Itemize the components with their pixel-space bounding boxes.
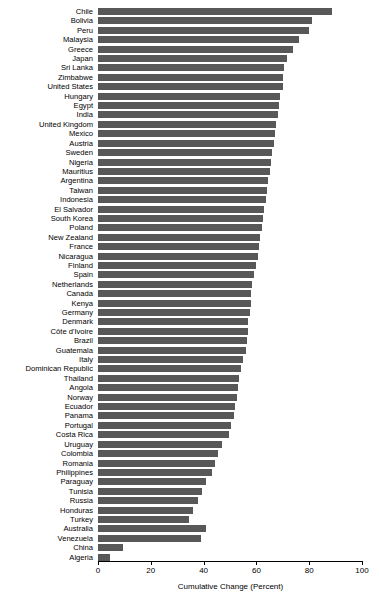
bar-row: [98, 469, 362, 476]
y-axis-label: Tunisia: [0, 488, 93, 495]
bar: [98, 356, 243, 363]
y-axis-label: Thailand: [0, 375, 93, 382]
bar-row: [98, 36, 362, 43]
y-axis-label: Romania: [0, 460, 93, 467]
y-axis-label: New Zealand: [0, 234, 93, 241]
bar: [98, 535, 201, 542]
y-axis-label: Finland: [0, 262, 93, 269]
x-axis-tick: [362, 561, 363, 565]
bar-chart: ChileBoliviaPeruMalaysiaGreeceJapanSri L…: [0, 0, 379, 603]
bar-row: [98, 55, 362, 62]
bar-row: [98, 309, 362, 316]
y-axis-label: Australia: [0, 525, 93, 532]
x-axis-tick: [204, 561, 205, 565]
bar-row: [98, 253, 362, 260]
x-axis-tick-label: 60: [252, 566, 261, 575]
bar-row: [98, 102, 362, 109]
bar: [98, 488, 202, 495]
bar-row: [98, 337, 362, 344]
bar-row: [98, 478, 362, 485]
y-axis-label: Netherlands: [0, 281, 93, 288]
bar: [98, 431, 229, 438]
bar: [98, 27, 309, 34]
bar: [98, 384, 238, 391]
y-axis-label: Denmark: [0, 318, 93, 325]
bar-row: [98, 516, 362, 523]
bar-row: [98, 394, 362, 401]
bar: [98, 262, 256, 269]
bar: [98, 8, 332, 15]
bar: [98, 243, 259, 250]
y-axis-label: Guatemala: [0, 347, 93, 354]
bar: [98, 478, 206, 485]
y-axis-label: Côte d'Ivoire: [0, 328, 93, 335]
y-axis-label: Colombia: [0, 450, 93, 457]
x-axis-title: Cumulative Change (Percent): [98, 582, 363, 591]
x-axis-tick-label: 0: [96, 566, 100, 575]
y-axis-label: South Korea: [0, 215, 93, 222]
bar-row: [98, 281, 362, 288]
y-axis-label: Norway: [0, 394, 93, 401]
bar-row: [98, 224, 362, 231]
x-axis-tick-label: 100: [355, 566, 368, 575]
y-axis-label: Ecuador: [0, 403, 93, 410]
y-axis-label: Spain: [0, 271, 93, 278]
bar: [98, 469, 212, 476]
bar: [98, 149, 272, 156]
y-axis-label: China: [0, 544, 93, 551]
bar: [98, 309, 250, 316]
bar-row: [98, 507, 362, 514]
bar: [98, 93, 280, 100]
y-axis-label: Chile: [0, 8, 93, 15]
bar: [98, 525, 206, 532]
x-axis-tick: [98, 561, 99, 565]
bar-row: [98, 535, 362, 542]
bar-row: [98, 403, 362, 410]
bar-row: [98, 243, 362, 250]
bar-row: [98, 187, 362, 194]
y-axis-label: Bolivia: [0, 17, 93, 24]
y-axis-label: Hungary: [0, 93, 93, 100]
bar: [98, 290, 251, 297]
bar-row: [98, 130, 362, 137]
bar-row: [98, 450, 362, 457]
bar: [98, 130, 275, 137]
y-axis-label: Kenya: [0, 300, 93, 307]
y-axis-label: Portugal: [0, 422, 93, 429]
bar: [98, 337, 247, 344]
y-axis-label: Argentina: [0, 177, 93, 184]
bar-row: [98, 215, 362, 222]
x-axis-line: [98, 561, 363, 562]
bar: [98, 36, 299, 43]
bar-row: [98, 159, 362, 166]
bar-row: [98, 318, 362, 325]
bar: [98, 177, 268, 184]
bar: [98, 159, 271, 166]
y-axis-label: Mauritius: [0, 168, 93, 175]
bar: [98, 224, 262, 231]
bar-row: [98, 365, 362, 372]
y-axis-label: Nicaragua: [0, 253, 93, 260]
y-axis-label: Germany: [0, 309, 93, 316]
bar-row: [98, 196, 362, 203]
y-axis-label: El Salvador: [0, 206, 93, 213]
bar-row: [98, 384, 362, 391]
y-axis-label: Japan: [0, 55, 93, 62]
bar-row: [98, 140, 362, 147]
bar-row: [98, 46, 362, 53]
bar: [98, 507, 193, 514]
bar-row: [98, 441, 362, 448]
bar: [98, 187, 267, 194]
bar-row: [98, 111, 362, 118]
y-axis-label: Algeria: [0, 554, 93, 561]
y-axis-label: Italy: [0, 356, 93, 363]
bar-row: [98, 544, 362, 551]
y-axis-label: Turkey: [0, 516, 93, 523]
bar-row: [98, 525, 362, 532]
y-axis-label: Malaysia: [0, 36, 93, 43]
bar-row: [98, 300, 362, 307]
bar: [98, 347, 246, 354]
bar-row: [98, 497, 362, 504]
y-axis-label: Mexico: [0, 130, 93, 137]
bar: [98, 460, 215, 467]
